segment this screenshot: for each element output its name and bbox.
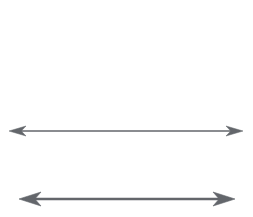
arrows-svg (0, 0, 253, 217)
canvas-background (0, 0, 253, 217)
diagram-canvas (0, 0, 253, 217)
